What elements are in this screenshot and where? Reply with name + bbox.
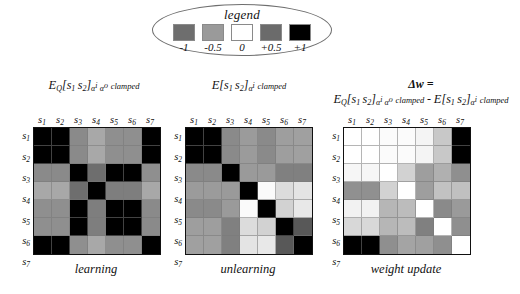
matrix-cell	[204, 146, 222, 164]
matrix-cell	[294, 218, 312, 236]
panel-learning: ΕQ[s1 s2]αi αo clamped s1s2s3s4s5s6s7 s1…	[18, 78, 170, 277]
legend-value-label: +1	[294, 41, 307, 53]
matrix-cell	[186, 236, 204, 254]
panel-weight-update: Δw = ΕQ[s1 s2]αi αo clamped - Ε[s1 s2]αi…	[328, 78, 514, 277]
axis-label: s1	[328, 127, 343, 148]
matrix-cell	[142, 218, 160, 236]
matrix-cell	[380, 236, 398, 254]
matrix-cell	[124, 128, 142, 146]
legend-title: legend	[152, 7, 332, 23]
matrix-cell	[362, 146, 380, 164]
legend-value-label: +0.5	[260, 41, 281, 53]
matrix-cell	[398, 164, 416, 182]
axis-label: s4	[328, 190, 343, 211]
matrix-cell	[142, 146, 160, 164]
matrix-cell	[240, 236, 258, 254]
matrix-cell	[106, 218, 124, 236]
matrix-cell	[124, 236, 142, 254]
matrix-cell	[416, 164, 434, 182]
legend-swatch	[202, 24, 224, 41]
weight-update-matrix	[343, 127, 471, 255]
legend-swatch	[260, 24, 282, 41]
panel-weight-update-title: Δw = ΕQ[s1 s2]αi αo clamped - Ε[s1 s2]αi…	[328, 78, 514, 108]
matrix-cell	[70, 218, 88, 236]
matrix-cell	[258, 182, 276, 200]
matrix-cell	[106, 128, 124, 146]
matrix-cell	[88, 128, 106, 146]
matrix-cell	[222, 164, 240, 182]
matrix-cell	[362, 218, 380, 236]
matrix-cell	[452, 236, 470, 254]
matrix-cell	[452, 164, 470, 182]
matrix-cell	[124, 182, 142, 200]
matrix-cell	[70, 164, 88, 182]
matrix-cell	[52, 218, 70, 236]
matrix-cell	[124, 164, 142, 182]
matrix-cell	[416, 182, 434, 200]
matrix-cell	[434, 218, 452, 236]
matrix-cell	[416, 236, 434, 254]
axis-label: s2	[328, 148, 343, 169]
matrix-cell	[434, 200, 452, 218]
matrix-cell	[186, 164, 204, 182]
axis-label: s7	[18, 253, 33, 274]
matrix-cell	[294, 200, 312, 218]
axis-label: s3	[170, 169, 185, 190]
matrix-cell	[398, 218, 416, 236]
matrix-cell	[434, 182, 452, 200]
matrix-cell	[186, 200, 204, 218]
matrix-cell	[34, 128, 52, 146]
panel-unlearning-title: Ε[s1 s2]αi clamped	[170, 78, 328, 108]
matrix-cell	[88, 182, 106, 200]
unlearning-matrix	[185, 127, 313, 255]
matrix-cell	[398, 236, 416, 254]
matrix-cell	[70, 236, 88, 254]
matrix-cell	[88, 218, 106, 236]
matrix-cell	[276, 236, 294, 254]
legend-swatch	[231, 24, 253, 41]
matrix-cell	[398, 146, 416, 164]
matrix-cell	[344, 236, 362, 254]
matrix-cell	[380, 164, 398, 182]
weight-update-caption: weight update	[343, 262, 469, 277]
axis-label: s5	[170, 211, 185, 232]
matrix-cell	[362, 164, 380, 182]
legend-swatch	[289, 24, 311, 41]
matrix-cell	[398, 182, 416, 200]
matrix-cell	[362, 236, 380, 254]
matrix-cell	[276, 182, 294, 200]
matrix-cell	[106, 146, 124, 164]
matrix-cell	[258, 200, 276, 218]
axis-label: s5	[18, 211, 33, 232]
matrix-cell	[452, 128, 470, 146]
matrix-cell	[276, 164, 294, 182]
matrix-cell	[222, 182, 240, 200]
matrix-cell	[142, 164, 160, 182]
matrix-cell	[344, 128, 362, 146]
matrix-cell	[204, 218, 222, 236]
matrix-cell	[106, 182, 124, 200]
matrix-cell	[276, 146, 294, 164]
matrix-cell	[222, 128, 240, 146]
matrix-cell	[434, 236, 452, 254]
matrix-cell	[124, 146, 142, 164]
matrix-cell	[34, 236, 52, 254]
weight-update-col-headers: s1s2s3s4s5s6s7	[343, 112, 469, 127]
axis-label: s1	[18, 127, 33, 148]
matrix-cell	[344, 200, 362, 218]
matrix-cell	[452, 182, 470, 200]
matrix-cell	[88, 164, 106, 182]
axis-label: s6	[328, 232, 343, 253]
matrix-cell	[204, 128, 222, 146]
matrix-cell	[52, 146, 70, 164]
matrix-cell	[452, 218, 470, 236]
panel-learning-title: ΕQ[s1 s2]αi αo clamped	[18, 78, 170, 108]
matrix-cell	[294, 146, 312, 164]
matrix-cell	[88, 200, 106, 218]
matrix-cell	[416, 218, 434, 236]
matrix-cell	[106, 200, 124, 218]
axis-label: s6	[18, 232, 33, 253]
matrix-cell	[52, 182, 70, 200]
matrix-cell	[204, 200, 222, 218]
matrix-cell	[398, 200, 416, 218]
